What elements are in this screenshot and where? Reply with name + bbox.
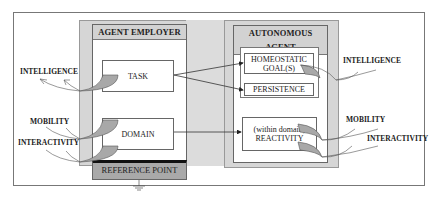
right-intelligence-flow <box>300 65 376 80</box>
left-mobility-flow <box>46 120 118 139</box>
diagram-overlay <box>0 0 447 209</box>
task-to-goal-arrow <box>174 63 243 75</box>
right-mobility-flow <box>298 124 378 140</box>
right-interactivity-flow <box>298 142 378 157</box>
left-interactivity-flow <box>46 146 118 162</box>
task-to-persistence-arrow <box>174 75 243 90</box>
left-intelligence-flow <box>40 75 118 91</box>
ground-icon <box>133 180 145 190</box>
